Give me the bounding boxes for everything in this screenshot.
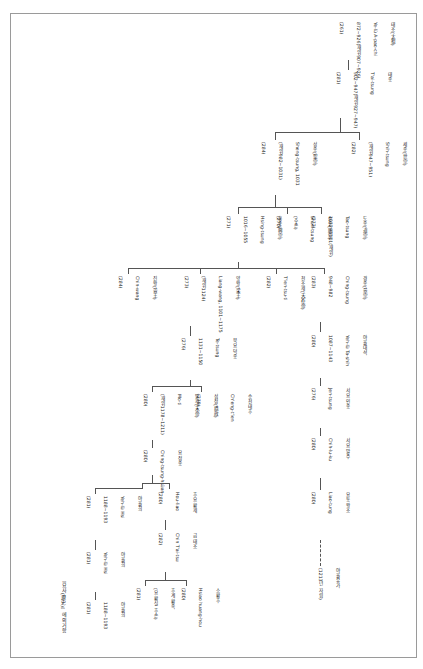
node-label: (282) [266,276,272,310]
connector [200,268,201,274]
connector [359,132,360,140]
node-label: Ching-tsung-hsüan [159,450,165,493]
node-label: (추존) [292,216,298,242]
node-label: 태종 [386,72,392,128]
node-label: (280) [158,492,164,513]
connector [320,378,321,386]
node-label: (279) [196,394,202,422]
node-label: Sheng-tsung, 1031 [294,142,300,186]
node-label: 1188~1193 [102,602,108,629]
node-label: 872~926(재위907~926) [355,22,361,78]
connector [95,488,143,489]
connector [275,132,276,140]
node-label: (280) [311,492,317,514]
node-label: 성종(聖宗) [311,142,317,186]
node-label: (284) [118,276,124,300]
connector [321,207,322,214]
connector [145,580,146,586]
node-label: 902~947(재위927~947) [352,72,358,128]
source-note: 『요사(遼史)』에 의거함 [60,578,67,634]
connector [128,268,324,269]
connector [287,207,288,214]
node-label: (280) [311,335,317,366]
node-label: (요 황실 후손) [152,588,158,620]
node-label: Hsing-tsung [259,216,265,244]
connector [320,322,321,332]
connector [152,386,153,392]
connector [186,580,187,586]
node-label: (282) [351,142,357,177]
node-label: T'ai-tsung [369,72,375,128]
node-label: (280) [143,450,149,493]
node-label: Yeh-lü Hsi [102,552,108,574]
node-label: 경종(景宗) [361,276,367,304]
node-label: 1131~1150 [197,338,203,365]
node-label: (270) [276,216,282,242]
node-xiao-huanghou-branch: 금 태조 Chin T'ai-tsu (282) [152,533,208,562]
connector [348,60,349,70]
node-label: 북요 덕종 [231,338,237,365]
node-label: 1087~1143 [327,335,333,366]
connector [142,483,170,484]
node-jingzong: 경종(景宗) Ching-tsung 948~982 (283) [305,276,378,304]
node-jinwang: 진왕(晉王) Chin-wang (284) [112,276,168,300]
connector [152,386,202,387]
node-label: (280) [181,588,187,627]
node-label: 야율희 [136,496,142,523]
connector [190,326,191,336]
node-label: (281) [86,552,92,574]
node-label: Te-tsung [214,338,220,365]
connector [275,195,276,207]
node-label: Mo-ti [176,394,182,435]
node-xiliao-mozhu: 서요 말주 Chih-lu-ku (280) [305,438,361,461]
connector [238,207,239,214]
node-xiliao-renzong: 서요 인종 Jen-tsung (276) [305,388,361,410]
connector [165,520,166,530]
connector [320,428,321,436]
node-label: (261) [339,22,345,78]
connector [128,268,129,274]
node-yelu-xi-b: 야율희 Yeh-lü Hsi (281) [80,552,136,574]
connector [152,440,153,448]
dashed-connector [320,540,321,566]
node-label: (281) [86,602,92,629]
node-beiliao-dezong: 북요 덕종 Te-tsung 1131~1150 (276) [175,338,248,365]
node-label: 요동 왕조 [344,492,350,514]
node-label: 후계 황족 [169,588,175,620]
node-chengtian: 승천태후 Ch'eng-t'ien 섭정(攝政) (279) [190,394,263,422]
node-label: Chin-wang [134,276,140,300]
node-label: (282) [158,533,164,562]
node-label: (276) [311,388,317,410]
node-label: (284) [261,142,267,186]
node-label: Liang-wang, 1101~1175 [217,276,223,333]
node-label: 세종(世宗) [401,142,407,177]
node-label: 천조제(天祚帝) [299,276,305,310]
node-label: 도종(道宗) [361,216,367,257]
node-label: (276) [181,338,187,365]
node-label: (재위1178~1211) [159,394,165,435]
node-yelu-liuge: 야율유가 (1213년 자립) [312,568,351,600]
node-label: (재위982~1031) [277,142,283,186]
node-label: 서요 말주 [344,438,350,461]
node-label: 진왕(晉王) [151,276,157,300]
node-label: (271) [226,216,232,244]
connector [169,483,170,489]
node-label: 승천태후 [246,394,252,422]
connector [324,268,325,274]
node-yelu-xi-a: 야율희 Yeh-lü Hsi 1188~1193 (281) [80,496,153,523]
node-hou-liao: 후요 황제 Hou-liao (280) [152,492,208,513]
node-label: Ye-lü A-pao-chi [372,22,378,78]
node-label: (273) [184,276,190,333]
node-xiao-huanghou: 소황후 Hsiao huang-hou (280) [175,588,231,627]
connector [238,207,322,208]
node-yelu-dashi: 야율대석 Yeh-lü Ta-shih 1087~1143 (280) [305,335,378,366]
node-label: Shih-tsung [384,142,390,177]
node-shizong: 세종(世宗) Shih-tsung (재위947~951) (282) [345,142,418,177]
node-label: 야율희 [119,602,125,629]
node-label: Hsiao huang-hou [197,588,203,627]
connector [145,580,187,581]
node-label: (281) [86,496,92,523]
node-label: (재위947~951) [367,142,373,177]
node-label: Chin T'ai-tsu [174,533,180,562]
node-label: Liao-tung [327,492,333,514]
